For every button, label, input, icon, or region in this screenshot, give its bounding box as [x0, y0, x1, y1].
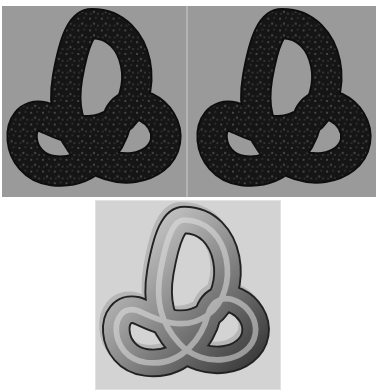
dark-trefoil-knot-image — [188, 6, 376, 197]
gray-trefoil-knot-image — [96, 201, 280, 389]
panel-bottom-knot — [95, 200, 281, 390]
panel-top-left-knot — [2, 6, 187, 197]
dark-trefoil-knot-image — [2, 6, 187, 197]
panel-top-right-knot — [188, 6, 376, 197]
